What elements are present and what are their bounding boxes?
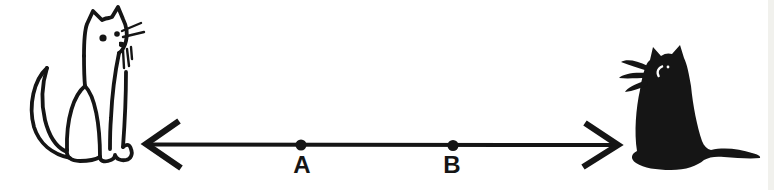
cat-front-leg: [123, 72, 126, 147]
cat-haunch-right: [85, 86, 100, 157]
point-a-label: A: [285, 153, 319, 177]
cat-haunch-left: [67, 86, 85, 150]
black-cat-illustration: [619, 45, 760, 170]
cat-whisker-down-1: [123, 50, 124, 68]
point-b-dot: [448, 140, 459, 151]
cat-tail-inner: [43, 68, 65, 151]
cat-tail: [32, 68, 70, 158]
point-b-label: B: [435, 153, 469, 177]
cat-head: [84, 7, 127, 56]
cat-face-details: [99, 31, 126, 47]
cat-right-eye: [114, 31, 120, 37]
scan-edge-artifact: [768, 0, 774, 190]
black-cat-whisker-2: [619, 73, 647, 79]
cat-base-line: [67, 150, 100, 161]
figure-canvas: A B: [0, 0, 781, 190]
cat-whisker-down-3: [131, 47, 132, 59]
distance-arrow: [146, 121, 618, 168]
black-cat-whisker-1: [621, 60, 648, 71]
cat-chest: [110, 53, 119, 149]
cat-paws: [100, 145, 132, 162]
white-cat-illustration: [32, 7, 144, 161]
cat-left-eye: [99, 34, 106, 41]
figure-svg: [0, 0, 781, 190]
black-cat-eye-fleck: [667, 66, 670, 69]
point-a-dot: [296, 140, 307, 151]
cat-whisker-down-2: [127, 49, 129, 66]
arrow-shaft: [149, 145, 616, 146]
black-cat-body: [632, 45, 760, 170]
cat-back: [84, 56, 85, 86]
